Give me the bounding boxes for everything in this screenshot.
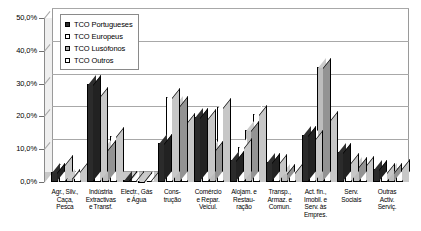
legend-label: TCO Lusófonos (74, 44, 125, 53)
y-axis-label: 30,0% (1, 80, 37, 88)
legend-swatch-icon (65, 58, 70, 63)
legend-label: TCO Outros (74, 56, 113, 65)
category-label-line: Activ. (364, 196, 410, 204)
gridline (52, 74, 409, 75)
bar (123, 180, 130, 182)
bar (51, 172, 58, 182)
category-label-line: Serv. às (293, 203, 339, 211)
category-label-line: Serviç. (364, 203, 410, 211)
legend-item[interactable]: TCO Lusófonos (65, 42, 133, 54)
bar-side-face (172, 88, 180, 180)
bar (230, 160, 237, 182)
category-label-line: Outras (364, 188, 410, 196)
bar-chart: 50,0%40,0%30,0%20,0%10,0%0,0% Agr., Silv… (0, 0, 421, 231)
y-axis-label: 0,0% (1, 178, 37, 186)
bar-side-face (116, 127, 124, 181)
bar (266, 162, 273, 182)
category-label-line: Empres. (293, 211, 339, 219)
y-axis-label: 40,0% (1, 47, 37, 55)
legend-item[interactable]: TCO Portugueses (65, 18, 133, 30)
bar (66, 178, 73, 182)
category-label: OutrasActiv.Serviç. (364, 188, 410, 211)
bar (87, 84, 94, 182)
legend-item[interactable]: TCO Outros (65, 54, 133, 66)
legend-swatch-icon (65, 34, 70, 39)
bar (302, 135, 309, 182)
legend-label: TCO Portugueses (74, 20, 133, 29)
legend: TCO Portugueses TCO Europeus TCO Lusófon… (60, 14, 139, 70)
bar-side-face (100, 87, 108, 181)
y-axis-label: 10,0% (1, 145, 37, 153)
gridline (52, 8, 409, 9)
bar-side-face (180, 96, 188, 181)
axis-tick (39, 149, 44, 150)
bar (194, 117, 201, 182)
legend-swatch-icon (65, 22, 70, 27)
legend-swatch-icon (65, 46, 70, 51)
bar-side-face (200, 108, 208, 181)
legend-label: TCO Europeus (74, 32, 123, 41)
y-axis-label: 20,0% (1, 112, 37, 120)
bar-side-face (323, 58, 331, 181)
category-label-line: e Transf. (78, 203, 124, 211)
bar (158, 143, 165, 182)
legend-item[interactable]: TCO Europeus (65, 30, 133, 42)
bar-side-face (93, 75, 101, 181)
bar (337, 152, 344, 182)
bar-side-face (251, 121, 259, 181)
axis-tick (39, 116, 44, 117)
bar (373, 169, 380, 182)
y-axis-label: 50,0% (1, 14, 37, 22)
plot-area-side-wall (44, 18, 52, 182)
bar-side-face (208, 109, 216, 181)
